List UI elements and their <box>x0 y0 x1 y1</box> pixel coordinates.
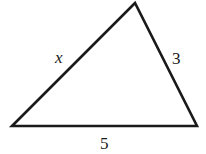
side-label-right: 3 <box>172 49 181 68</box>
side-label-bottom: 5 <box>100 134 109 153</box>
triangle-diagram: x 3 5 <box>0 0 206 154</box>
triangle <box>12 3 197 126</box>
side-label-left: x <box>54 48 63 67</box>
